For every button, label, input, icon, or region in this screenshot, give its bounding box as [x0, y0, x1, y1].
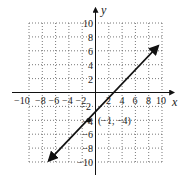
y-tick: −2 [80, 101, 91, 112]
y-tick: −6 [82, 129, 93, 140]
x-tick: 4 [120, 95, 125, 106]
y-tick: 8 [88, 32, 93, 43]
y-tick: −10 [77, 157, 93, 168]
x-tick: 6 [133, 95, 138, 106]
x-tick: −8 [35, 95, 46, 106]
point-marker [86, 118, 91, 123]
y-tick: −8 [82, 143, 93, 154]
x-tick: 8 [146, 95, 151, 106]
x-tick: 10 [156, 95, 166, 106]
y-tick: 2 [88, 74, 93, 85]
point-label: (−1, −4) [98, 115, 131, 127]
x-tick: −6 [49, 95, 60, 106]
y-tick: 4 [88, 60, 93, 71]
y-axis-label: y [100, 3, 107, 17]
x-tick: −4 [62, 95, 73, 106]
coordinate-plane: x y −10 −8 −6 −4 −2 2 4 6 8 10 10 8 6 4 … [0, 0, 185, 181]
x-axis-label: x [171, 95, 178, 109]
x-tick: −10 [14, 95, 30, 106]
y-tick: 10 [83, 18, 93, 29]
y-tick: 6 [88, 46, 93, 57]
